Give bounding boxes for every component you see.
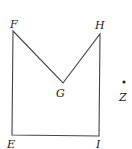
label-z: Z [118,91,127,104]
label-g: G [56,87,65,100]
label-h: H [94,19,105,32]
label-f: F [9,18,18,31]
geometry-diagram: F H G Z E I [0,0,132,149]
label-e: E [6,138,15,149]
point-z-dot [122,80,125,83]
label-i: I [95,138,101,149]
pentagon-fghie [12,31,100,136]
